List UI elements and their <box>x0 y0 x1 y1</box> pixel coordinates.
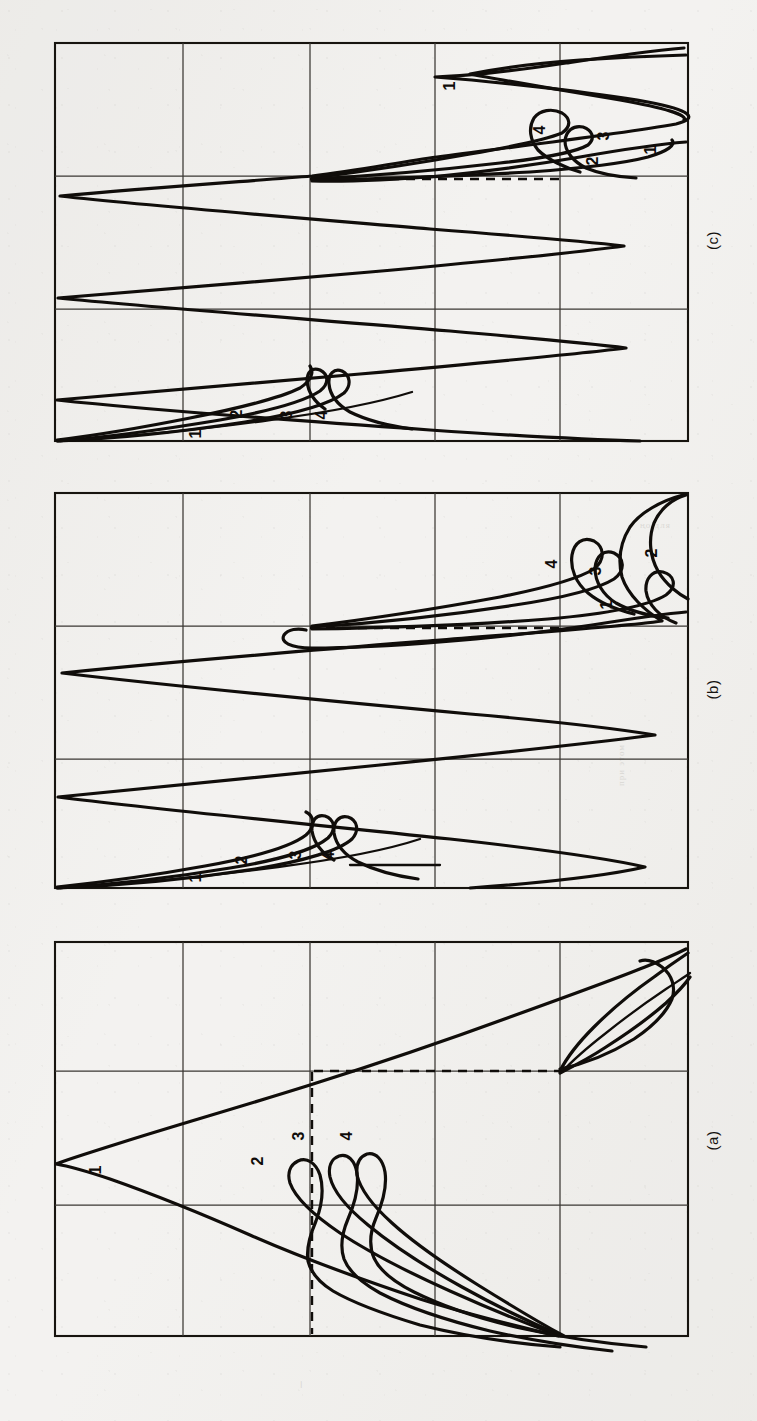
panel-c-curve-2 <box>312 140 673 180</box>
panel-c-label-2-left: 2 <box>228 410 246 419</box>
panel-a-label-2: 2 <box>249 1157 267 1166</box>
panel-a-label-3: 3 <box>290 1132 308 1141</box>
panel-b-label-1-right: 1 <box>598 601 616 610</box>
panel-a-label-1: 1 <box>87 1166 105 1175</box>
panel-a-svg <box>0 935 757 1355</box>
panel-a-envelope-curve <box>560 953 688 1071</box>
panel-c-label-3-left: 3 <box>278 411 296 420</box>
panel-c-label-1-left: 1 <box>187 430 205 439</box>
panel-c-oscillating-curve <box>57 48 689 441</box>
panel-c-label-3: 3 <box>595 132 613 141</box>
panel-c-label-4-left: 4 <box>313 411 331 420</box>
figure-page: но для при этом ا <box>0 0 757 1421</box>
panel-b-curve-3 <box>312 552 668 627</box>
panel-c-label-4: 4 <box>531 126 549 135</box>
panel-b-frame <box>55 493 688 888</box>
panel-a-label-4: 4 <box>338 1132 356 1141</box>
panel-b-oscillating-curve <box>58 495 683 888</box>
panel-a-envelope-curve-2 <box>562 973 690 1072</box>
panel-a-curve-2 <box>289 1160 560 1347</box>
panel-c-label-2-right: 2 <box>584 157 602 166</box>
panel-b-label-3-right: 3 <box>587 567 605 576</box>
panel-b-label-4-left: 4 <box>320 852 338 861</box>
panel-c-label-1-right: 1 <box>642 146 660 155</box>
panel-b-curve-4 <box>312 539 634 626</box>
panel-a-caption: (a) <box>704 1131 721 1151</box>
panel-b: 2 3 4 1 1 2 3 4 (b) <box>0 487 757 902</box>
panel-b-label-4-right: 4 <box>543 560 561 569</box>
panel-b-label-2-right: 2 <box>643 549 661 558</box>
panel-c-svg <box>0 0 757 470</box>
panel-c-curve-1-upper <box>470 55 686 120</box>
panel-c-label-1-top: 1 <box>441 82 459 91</box>
panel-c: 1 4 3 1 2 1 2 3 4 (c) <box>0 0 757 470</box>
panel-a-curve-1 <box>56 949 686 1336</box>
panel-b-curve-2-upper <box>651 495 688 599</box>
panel-b-label-3-left: 3 <box>287 851 305 860</box>
panel-c-caption: (c) <box>704 231 721 250</box>
panel-a: 1 2 3 4 (a) <box>0 935 757 1355</box>
panel-a-frame <box>55 942 688 1336</box>
panel-b-caption: (b) <box>704 680 721 700</box>
panel-b-label-1-left: 1 <box>187 874 205 883</box>
ghost-text: ا <box>300 1380 303 1390</box>
panel-b-label-2-left: 2 <box>233 856 251 865</box>
